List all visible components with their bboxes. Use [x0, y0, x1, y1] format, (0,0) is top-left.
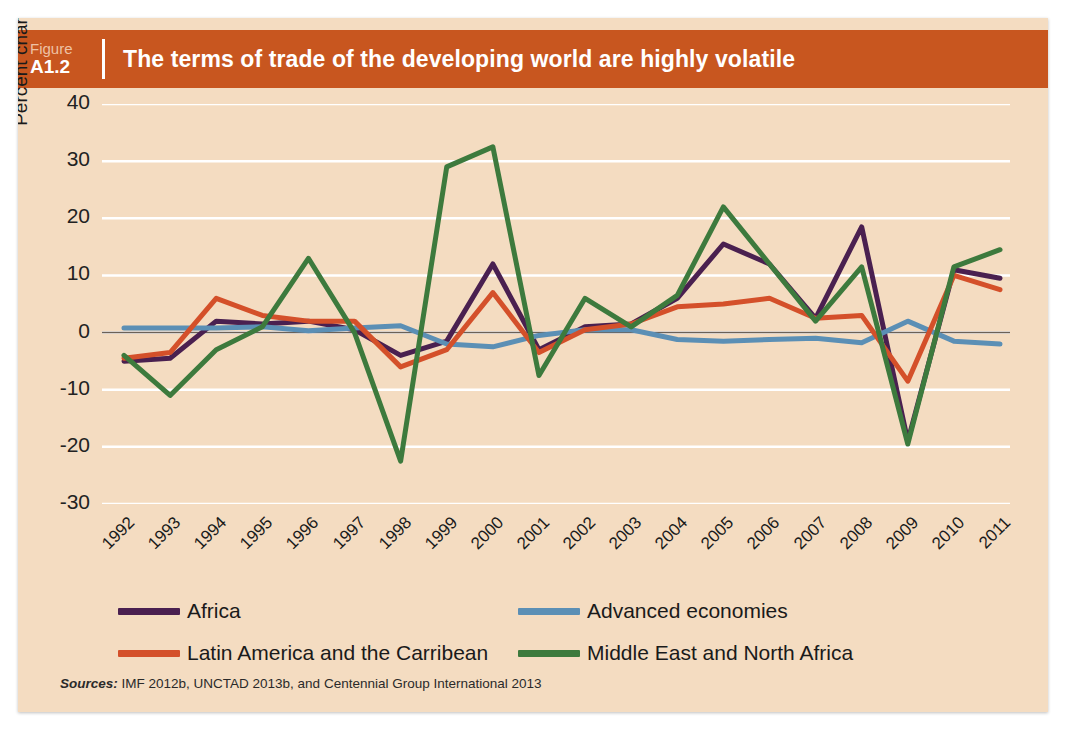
- y-tick-label: 0: [46, 319, 90, 343]
- x-tick-label: 2011: [964, 513, 1015, 564]
- x-tick-label: 1992: [88, 513, 139, 564]
- y-tick-label: 20: [46, 204, 90, 228]
- x-tick-label: 2001: [503, 513, 554, 564]
- source-note: Sources: IMF 2012b, UNCTAD 2013b, and Ce…: [60, 676, 542, 691]
- legend-row-2: Latin America and the Carribean Middle E…: [118, 632, 948, 674]
- legend-label-advanced-economies: Advanced economies: [587, 599, 788, 623]
- figure-number-block: Figure A1.2: [30, 41, 100, 77]
- legend-item-middle-east[interactable]: Middle East and North Africa: [518, 641, 853, 665]
- figure-word-label: Figure: [30, 41, 100, 57]
- figure-card: Figure A1.2 The terms of trade of the de…: [18, 18, 1048, 712]
- y-tick-label: 30: [46, 147, 90, 171]
- chart-plot-area: 403020100-10-20-30 199219931994199519961…: [102, 104, 1010, 504]
- x-tick-label: 2006: [734, 513, 785, 564]
- x-tick-label: 1999: [411, 513, 462, 564]
- x-tick-label: 1994: [180, 513, 231, 564]
- chart-legend: Africa Advanced economies Latin America …: [118, 590, 948, 674]
- x-tick-label: 2008: [826, 513, 877, 564]
- legend-label-africa: Africa: [187, 599, 241, 623]
- legend-swatch-latin-america: [118, 650, 180, 657]
- x-tick-label: 1995: [226, 513, 277, 564]
- figure-header-band: Figure A1.2 The terms of trade of the de…: [18, 30, 1048, 88]
- y-tick-label: -10: [46, 376, 90, 400]
- source-text: IMF 2012b, UNCTAD 2013b, and Centennial …: [118, 676, 542, 691]
- x-tick-label: 2003: [595, 513, 646, 564]
- header-divider: [102, 39, 105, 79]
- source-label: Sources:: [60, 676, 118, 691]
- y-axis-title: Percent change in terms of trade: [18, 18, 32, 168]
- figure-id-label: A1.2: [30, 57, 100, 77]
- legend-item-latin-america[interactable]: Latin America and the Carribean: [118, 641, 518, 665]
- legend-swatch-advanced-economies: [518, 608, 580, 615]
- y-tick-label: 10: [46, 261, 90, 285]
- x-tick-label: 1997: [319, 513, 370, 564]
- x-tick-label: 2009: [872, 513, 923, 564]
- legend-label-latin-america: Latin America and the Carribean: [187, 641, 488, 665]
- x-tick-label: 2004: [641, 513, 692, 564]
- legend-item-advanced-economies[interactable]: Advanced economies: [518, 599, 788, 623]
- legend-swatch-middle-east: [518, 650, 580, 657]
- page-title: The terms of trade of the developing wor…: [123, 46, 795, 73]
- legend-swatch-africa: [118, 608, 180, 615]
- x-tick-label: 2000: [457, 513, 508, 564]
- x-tick-label: 2010: [918, 513, 969, 564]
- series-lines-group: [124, 147, 1000, 461]
- series-line-middle-east-and-north-africa: [124, 147, 1000, 461]
- legend-label-middle-east: Middle East and North Africa: [587, 641, 853, 665]
- x-tick-label: 2002: [549, 513, 600, 564]
- y-tick-label: 40: [46, 90, 90, 114]
- legend-row-1: Africa Advanced economies: [118, 590, 948, 632]
- x-tick-label: 2005: [688, 513, 739, 564]
- y-tick-label: -30: [46, 490, 90, 514]
- x-tick-label: 2007: [780, 513, 831, 564]
- legend-item-africa[interactable]: Africa: [118, 599, 518, 623]
- x-tick-label: 1993: [134, 513, 185, 564]
- x-tick-label: 1998: [365, 513, 416, 564]
- line-chart-svg: [102, 104, 1010, 504]
- y-tick-label: -20: [46, 433, 90, 457]
- x-tick-label: 1996: [273, 513, 324, 564]
